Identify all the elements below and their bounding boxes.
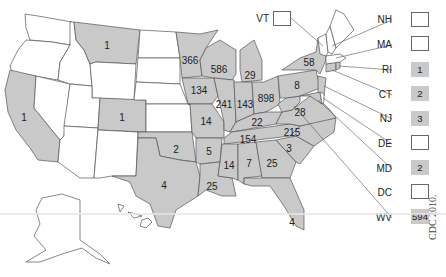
label-mo: 14	[200, 116, 212, 127]
label-ar: 5	[206, 146, 212, 157]
label-fl: 4	[289, 217, 295, 228]
scan-artifact-line	[0, 213, 446, 215]
callout-ct-label: CT	[368, 89, 392, 100]
label-ms: 14	[223, 160, 235, 171]
label-il: 241	[216, 99, 233, 110]
state-az	[58, 126, 98, 178]
label-mt: 1	[104, 40, 110, 51]
label-la: 25	[206, 181, 218, 192]
label-ca: 1	[21, 112, 27, 123]
state-wy	[90, 62, 136, 100]
label-tx: 4	[161, 180, 167, 191]
label-sc: 3	[286, 143, 292, 154]
state-nd	[138, 30, 180, 58]
callout-md-label: MD	[368, 163, 392, 174]
callout-nj-box: 3	[411, 111, 429, 126]
label-oh: 898	[258, 93, 275, 104]
callout-de-box	[411, 135, 429, 150]
callout-ct-box: 2	[411, 86, 429, 101]
label-mn: 366	[182, 55, 199, 66]
callout-vt-box	[273, 11, 291, 26]
label-ky: 22	[251, 117, 263, 128]
callout-nh-label: NH	[368, 14, 392, 25]
source-credit: CDC 2010.	[427, 194, 438, 240]
callout-md-box: 2	[411, 160, 429, 175]
label-ga: 25	[266, 158, 278, 169]
label-tn: 154	[240, 134, 257, 145]
callout-dc-label: DC	[368, 187, 392, 198]
state-nm	[94, 130, 138, 178]
callout-vt-label: VT	[245, 13, 269, 24]
label-ia: 134	[191, 85, 208, 96]
label-ok: 2	[173, 144, 179, 155]
callout-ri-label: RI	[368, 64, 392, 75]
label-co: 1	[119, 112, 125, 123]
state-ak	[26, 194, 110, 264]
state-fl	[244, 178, 304, 230]
callout-nj-label: NJ	[368, 113, 392, 124]
label-in: 143	[237, 99, 254, 110]
state-ks	[146, 104, 192, 132]
callout-ma-box	[411, 36, 429, 51]
state-hi	[140, 218, 152, 228]
label-ny: 58	[303, 57, 315, 68]
callout-ri-box: 1	[411, 62, 429, 77]
state-sd	[136, 58, 180, 84]
callout-nh-box	[411, 12, 429, 27]
label-pa: 8	[294, 80, 300, 91]
state-hi-2	[118, 204, 124, 212]
state-ma	[326, 54, 346, 64]
label-mi: 29	[244, 70, 256, 81]
label-nc: 215	[284, 127, 301, 138]
label-al: 7	[246, 158, 252, 169]
callout-de-label: DE	[368, 138, 392, 149]
callout-ma-label: MA	[368, 39, 392, 50]
label-wi: 586	[211, 64, 228, 75]
